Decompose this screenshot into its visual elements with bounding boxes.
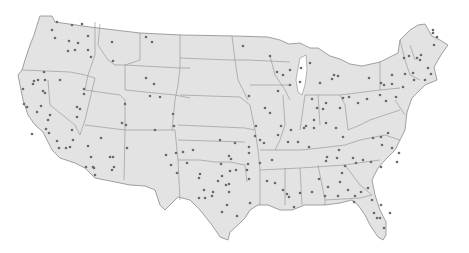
location-dot — [165, 154, 168, 157]
location-dot — [379, 94, 382, 97]
location-dot — [360, 191, 363, 194]
location-dot — [226, 204, 229, 207]
location-dot — [342, 136, 345, 139]
location-dot — [170, 164, 173, 167]
location-dot — [172, 113, 175, 116]
location-dot — [336, 157, 339, 160]
location-dot — [175, 152, 178, 155]
location-dot — [40, 105, 43, 108]
location-dot — [398, 152, 401, 155]
location-dot — [56, 140, 59, 143]
location-dot — [221, 211, 224, 214]
location-dot — [154, 129, 157, 132]
location-dot — [389, 212, 392, 215]
location-dot — [56, 21, 59, 24]
location-dot — [337, 75, 340, 78]
location-dot — [126, 147, 129, 150]
location-dot — [109, 156, 112, 159]
location-dot — [230, 158, 233, 161]
location-dot — [83, 88, 86, 91]
location-dot — [355, 162, 358, 165]
location-dot — [111, 41, 114, 44]
location-dot — [111, 169, 114, 172]
location-dot — [151, 41, 154, 44]
location-dot — [248, 178, 251, 181]
location-dot — [402, 86, 405, 89]
location-dot — [186, 162, 189, 165]
location-dot — [313, 119, 316, 122]
location-dot — [416, 57, 419, 60]
location-dot — [259, 162, 262, 165]
location-dot — [339, 107, 342, 110]
location-dot — [248, 95, 251, 98]
location-dot — [211, 195, 214, 198]
location-dot — [276, 71, 279, 74]
location-dot — [112, 156, 115, 159]
location-dot — [220, 163, 223, 166]
location-dot — [311, 98, 314, 101]
location-dot — [145, 36, 148, 39]
location-dot — [203, 189, 206, 192]
location-dot — [44, 79, 47, 82]
location-dot — [182, 151, 185, 154]
location-dot — [299, 192, 302, 195]
location-dot — [318, 178, 321, 181]
location-dot — [68, 40, 71, 43]
location-dot — [396, 161, 399, 164]
location-dot — [436, 36, 439, 39]
location-dot — [274, 182, 277, 185]
location-dot — [430, 73, 433, 76]
location-dot — [280, 125, 283, 128]
location-dot — [353, 201, 356, 204]
location-dot — [352, 157, 355, 160]
location-dot — [381, 144, 384, 147]
location-dot — [288, 196, 291, 199]
location-dot — [48, 132, 51, 135]
location-dot — [362, 159, 365, 162]
location-dot — [69, 146, 72, 149]
location-dot — [316, 107, 319, 110]
location-dot — [23, 103, 26, 106]
location-dot — [212, 191, 215, 194]
location-dot — [373, 212, 376, 215]
location-dot — [391, 83, 394, 86]
location-dot — [269, 55, 272, 58]
location-dot — [198, 197, 201, 200]
location-dot — [271, 159, 274, 162]
location-dot — [387, 132, 390, 135]
location-dot — [100, 137, 103, 140]
location-dot — [121, 122, 124, 125]
location-dot — [176, 172, 179, 175]
location-dot — [299, 81, 302, 84]
location-dot — [368, 77, 371, 80]
location-dot — [385, 100, 388, 103]
location-dot — [327, 186, 330, 189]
location-dot — [229, 170, 232, 173]
location-dot — [153, 83, 156, 86]
location-dot — [342, 97, 345, 100]
location-dot — [427, 67, 430, 70]
location-dot — [242, 45, 245, 48]
location-dot — [248, 146, 251, 149]
location-dot — [42, 90, 45, 93]
location-dot — [297, 141, 300, 144]
location-dot — [90, 56, 93, 59]
location-dot — [221, 175, 224, 178]
location-dot — [325, 122, 328, 125]
location-dot — [433, 44, 436, 47]
location-dot — [173, 125, 176, 128]
location-dot — [420, 54, 423, 57]
location-dot — [333, 74, 336, 77]
location-dot — [380, 82, 383, 85]
location-dot — [32, 83, 35, 86]
location-dot — [324, 195, 327, 198]
location-dot — [26, 106, 29, 109]
location-dot — [376, 217, 379, 220]
location-dot — [263, 142, 266, 145]
location-dot — [234, 142, 237, 145]
location-dot — [228, 155, 231, 158]
location-dot — [87, 49, 90, 52]
location-dot — [72, 139, 75, 142]
location-dot — [289, 84, 292, 87]
location-dot — [319, 82, 322, 85]
